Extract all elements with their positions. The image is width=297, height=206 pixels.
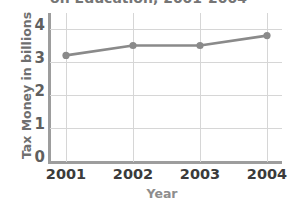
gridline-y-2 [50,95,282,96]
x-tick-label-2004: 2004 [237,166,297,182]
y-tick-label-1: 1 [25,117,45,132]
y-tick-label-0: 0 [25,150,45,165]
x-axis-title: Year [44,186,280,201]
gridline-y-1 [50,128,282,129]
gridline-x-2003 [200,13,201,162]
y-tick-label-2: 2 [25,84,45,99]
gridline-y-4 [50,29,282,30]
x-axis-line [48,161,282,164]
gridline-x-2001 [66,13,67,162]
x-tick-label-2001: 2001 [36,166,96,182]
chart-title: on Education, 2001-2004 [0,0,297,6]
gridline-y-3 [50,62,282,63]
gridline-x-2004 [267,13,268,162]
y-tick-label-4: 4 [25,18,45,33]
y-tick-label-3: 3 [25,51,45,66]
x-tick-label-2002: 2002 [103,166,163,182]
y-axis-line [48,13,51,163]
gridline-x-2002 [133,13,134,162]
line-chart: on Education, 2001-2004 Tax Money in bil… [0,0,297,206]
plot-area [48,13,282,163]
x-tick-label-2003: 2003 [170,166,230,182]
